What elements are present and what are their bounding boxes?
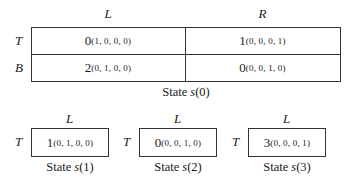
row-header-t: T — [123, 135, 130, 149]
table-border-bottom — [31, 81, 341, 82]
cell-t-l: 0(1, 0, 0, 0) — [31, 27, 185, 54]
transition: (0, 1, 0, 0) — [91, 63, 131, 73]
cell-t-r: 1(0, 0, 0, 1) — [185, 27, 340, 54]
column-header-r: R — [185, 7, 340, 21]
cell-t-l: 1(0, 1, 0, 0) — [31, 128, 109, 157]
transition: (0, 0, 0, 1) — [270, 138, 310, 148]
cell-t-l: 0(0, 0, 1, 0) — [139, 128, 217, 157]
transition: (0, 0, 1, 0) — [161, 138, 201, 148]
transition: (0, 1, 0, 0) — [53, 138, 93, 148]
cell-b-r: 0(0, 0, 1, 0) — [185, 54, 340, 81]
transition: (1, 0, 0, 0) — [91, 36, 131, 46]
column-header-l: L — [31, 112, 108, 126]
cell-t-l: 3(0, 0, 0, 1) — [248, 128, 326, 157]
cell-b-l: 2(0, 1, 0, 0) — [31, 54, 185, 81]
state-1-caption: State s(1) — [31, 160, 109, 174]
transition: (0, 0, 0, 1) — [246, 36, 286, 46]
row-header-b: B — [15, 61, 23, 75]
state-3-caption: State s(3) — [248, 160, 326, 174]
column-header-l: L — [139, 112, 216, 126]
column-header-l: L — [248, 112, 325, 126]
row-header-t: T — [15, 34, 22, 48]
row-header-t: T — [15, 135, 22, 149]
table-border-right — [340, 27, 341, 82]
transition: (0, 0, 1, 0) — [246, 63, 286, 73]
state-2-caption: State s(2) — [139, 160, 217, 174]
column-header-l: L — [31, 7, 185, 21]
state-0-caption: State s(0) — [31, 85, 341, 99]
row-header-t: T — [232, 135, 239, 149]
